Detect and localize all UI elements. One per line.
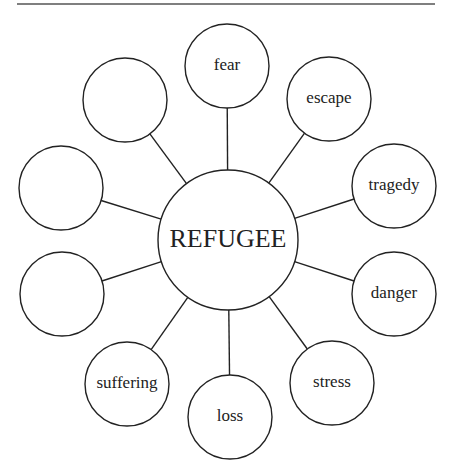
connector-line <box>150 134 187 184</box>
center-node: REFUGEE <box>158 170 298 310</box>
node-label: fear <box>214 55 241 74</box>
word-web-diagram: fearescapetragedydangerstresslosssufferi… <box>0 0 455 476</box>
node-empty-7 <box>20 252 104 336</box>
connector-line <box>102 262 161 281</box>
node-loss: loss <box>188 375 272 459</box>
connector-line <box>151 297 188 349</box>
node-label: escape <box>306 88 351 107</box>
node-danger: danger <box>352 252 436 336</box>
connector-line <box>269 133 305 183</box>
connector-line <box>229 310 230 375</box>
connector-line <box>269 297 307 349</box>
node-empty-8 <box>19 146 103 230</box>
connector-line <box>101 200 161 219</box>
node-escape: escape <box>287 57 371 141</box>
node-circle <box>83 58 167 142</box>
node-stress: stress <box>290 341 374 425</box>
node-fear: fear <box>185 24 269 108</box>
node-label: suffering <box>96 373 158 392</box>
node-label: danger <box>371 283 418 302</box>
node-suffering: suffering <box>85 342 169 426</box>
node-tragedy: tragedy <box>352 144 436 228</box>
node-circle <box>19 146 103 230</box>
node-circle <box>20 252 104 336</box>
center-label: REFUGEE <box>170 224 287 253</box>
connector-line <box>295 262 354 281</box>
node-label: stress <box>313 372 351 391</box>
node-label: loss <box>217 406 243 425</box>
connector-line <box>295 199 354 218</box>
node-label: tragedy <box>369 175 420 194</box>
node-empty-9 <box>83 58 167 142</box>
